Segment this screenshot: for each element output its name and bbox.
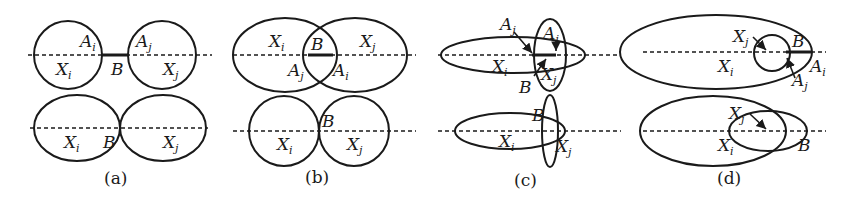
panel-d: Xj B Xi Ai Aj Xj Xi B (d) (620, 15, 826, 188)
arrow-Xj (750, 114, 766, 129)
label-Aj: Aj (134, 31, 152, 54)
label-Xj: Xj (539, 64, 557, 87)
caption-d: (d) (717, 168, 741, 188)
label-Xj: Xj (731, 26, 749, 49)
label-Xi: Xi (490, 56, 508, 79)
label-Aj-outer: Aj (498, 14, 516, 37)
label-Xi: Xi (275, 134, 293, 157)
label-B: B (518, 77, 532, 97)
label-Ai: Ai (808, 56, 826, 79)
panel-a: Ai Aj Xi B Xj Xi B Xj (a) (28, 21, 212, 188)
panel-d-top: Xj B Xi Ai Aj (620, 15, 826, 93)
label-Aj-inner: Aj (541, 23, 559, 46)
panel-a-bottom: Xi B Xj (30, 95, 208, 161)
label-Ai: Ai (78, 31, 96, 54)
label-B: B (110, 59, 124, 79)
panel-c-top: Aj Aj Xi Xj B (438, 14, 621, 97)
label-B: B (321, 111, 335, 131)
label-Ai: Ai (331, 60, 349, 83)
panel-b: Xi B Xj Aj Ai B Xi Xj (b) (233, 18, 416, 187)
label-Xj: Xj (161, 59, 179, 82)
ellipse-j (754, 35, 790, 71)
label-Xj: Xj (727, 103, 745, 126)
panel-b-bottom: B Xi Xj (233, 96, 416, 166)
panel-c-bottom: B Xi Xj (438, 95, 621, 167)
label-Aj: Aj (286, 60, 304, 83)
label-Xj: Xj (554, 136, 572, 159)
label-Xi: Xi (62, 132, 80, 155)
panel-b-top: Xi B Xj Aj Ai (233, 18, 416, 92)
label-B: B (531, 105, 545, 125)
panel-c: Aj Aj Xi Xj B B Xi Xj (c) (438, 14, 621, 190)
label-Aj: Aj (790, 70, 808, 93)
label-Xj: Xj (358, 31, 376, 54)
panel-d-bottom: Xj Xi B (640, 96, 826, 166)
label-Xi: Xi (716, 56, 734, 79)
label-B: B (310, 34, 324, 54)
label-B: B (102, 132, 116, 152)
label-Xi: Xi (497, 131, 515, 154)
label-B: B (797, 135, 811, 155)
ellipse-overlap-figure: Ai Aj Xi B Xj Xi B Xj (a) Xi B Xj Aj Ai (0, 0, 851, 216)
caption-c: (c) (514, 170, 537, 190)
label-Xj: Xj (345, 134, 363, 157)
label-Xj: Xj (161, 132, 179, 155)
label-Xi: Xi (267, 31, 285, 54)
caption-b: (b) (305, 167, 329, 187)
caption-a: (a) (104, 168, 127, 188)
panel-a-top: Ai Aj Xi B Xj (28, 21, 212, 89)
label-Xi: Xi (54, 59, 72, 82)
arrow-Aj (514, 32, 532, 53)
label-B: B (791, 31, 805, 51)
